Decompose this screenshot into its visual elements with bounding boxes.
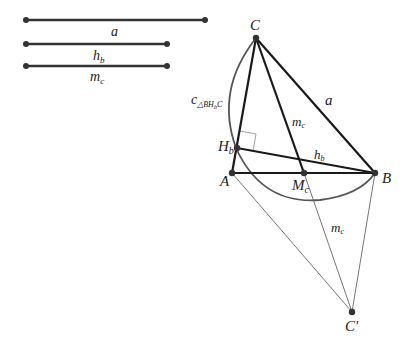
label-Cprime: C': [345, 318, 359, 334]
segment-label-a: a: [325, 92, 333, 108]
given-segment-a[interactable]: [23, 17, 208, 23]
given-label-hb: hb: [93, 48, 105, 65]
line-A-Cprime[interactable]: [232, 173, 352, 312]
point-Hb[interactable]: [234, 145, 240, 151]
line-B-Cprime[interactable]: [352, 173, 375, 312]
point-C[interactable]: [253, 35, 259, 41]
point-Mc[interactable]: [301, 170, 307, 176]
point-B[interactable]: [372, 170, 378, 176]
label-A: A: [219, 173, 230, 189]
given-segment-hb[interactable]: [23, 41, 170, 47]
segment-label-hb: hb: [314, 147, 325, 163]
given-label-a: a: [111, 24, 118, 39]
given-label-mc: mc: [90, 69, 104, 86]
geometry-construction: a hb mc C Hb A B Mc C' a hb mc mc c△BHbC: [0, 0, 411, 340]
label-B: B: [382, 170, 391, 186]
segment-CA[interactable]: [232, 38, 256, 173]
point-A[interactable]: [229, 170, 235, 176]
segment-label-mc-lower: mc: [331, 220, 344, 236]
label-Hb: Hb: [217, 138, 234, 156]
segment-label-mc-upper: mc: [292, 114, 305, 130]
segment-Hb-B[interactable]: [237, 148, 375, 173]
circle-label: c△BHbC: [191, 92, 223, 110]
label-C: C: [250, 17, 261, 33]
point-Cprime[interactable]: [349, 309, 355, 315]
